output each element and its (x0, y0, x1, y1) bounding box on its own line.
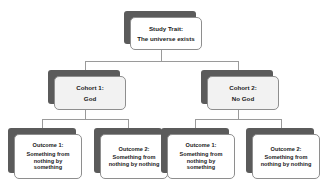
node-face: Cohort 1: God (54, 76, 126, 110)
node-line-1: Outcome 1: (33, 142, 64, 149)
node-cohort-2[interactable]: Cohort 2: No God (201, 70, 273, 104)
node-line-1: Outcome 2: (271, 146, 302, 153)
node-line-3: nothing by nothing (109, 161, 160, 168)
node-outcome-4[interactable]: Outcome 2: Something from nothing by not… (246, 128, 314, 173)
node-line-1: Cohort 1: (76, 84, 104, 91)
connector-root-spine (85, 61, 238, 62)
node-outcome-1[interactable]: Outcome 1: Something from nothing by som… (8, 128, 76, 173)
node-face: Outcome 2: Something from nothing by not… (252, 134, 320, 179)
node-line-4: something (34, 164, 62, 171)
node-line-2: Something from (180, 151, 223, 158)
node-line-2: The universe exists (137, 35, 194, 42)
node-line-2: Something from (113, 154, 156, 161)
node-face: Study Trait: The universe exists (130, 17, 202, 50)
node-outcome-3[interactable]: Outcome 1: Something from nothing by som… (161, 128, 229, 173)
node-line-3: nothing by nothing (261, 161, 312, 168)
node-line-1: Outcome 2: (119, 146, 150, 153)
node-line-1: Outcome 1: (186, 142, 217, 149)
flowchart-canvas: Study Trait: The universe exists Cohort … (0, 0, 321, 187)
node-line-1: Study Trait: (149, 25, 183, 32)
node-face: Cohort 2: No God (207, 76, 279, 110)
node-study-trait[interactable]: Study Trait: The universe exists (124, 11, 196, 44)
node-outcome-2[interactable]: Outcome 2: Something from nothing by not… (94, 128, 162, 173)
node-line-2: Something from (27, 151, 70, 158)
connector-cohort-2-spine (195, 119, 281, 120)
node-line-2: God (84, 95, 96, 102)
node-face: Outcome 1: Something from nothing by som… (14, 134, 82, 179)
node-line-3: nothing by (34, 158, 63, 165)
connector-to-outcome-3 (195, 119, 196, 128)
node-face: Outcome 2: Something from nothing by not… (100, 134, 168, 179)
node-cohort-1[interactable]: Cohort 1: God (48, 70, 120, 104)
connector-to-outcome-2 (128, 119, 129, 128)
connector-to-outcome-4 (281, 119, 282, 128)
node-line-1: Cohort 2: (229, 84, 257, 91)
node-face: Outcome 1: Something from nothing by som… (167, 134, 235, 179)
connector-to-outcome-1 (42, 119, 43, 128)
node-line-2: Something from (265, 154, 308, 161)
node-line-4: something (187, 164, 215, 171)
node-line-2: No God (232, 95, 254, 102)
node-line-3: nothing by (187, 158, 216, 165)
connector-cohort-1-spine (42, 119, 128, 120)
